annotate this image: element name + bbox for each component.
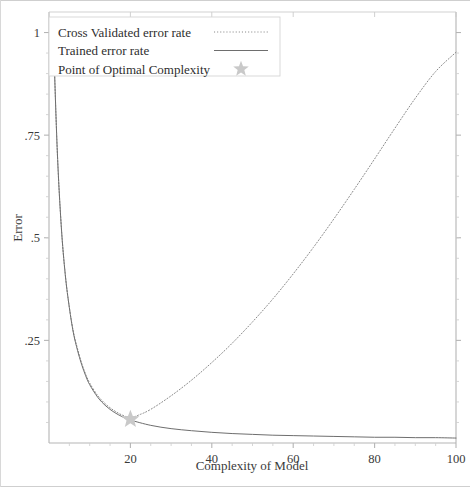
y-tick-label: .25 [24, 334, 40, 348]
plot-frame [49, 12, 456, 443]
y-axis-label: Error [10, 214, 25, 242]
y-axis-minor-ticks [46, 53, 459, 422]
chart-legend: Cross Validated error rateTrained error … [49, 17, 280, 77]
y-tick-label: .75 [24, 129, 40, 143]
x-tick-label: 100 [447, 452, 466, 466]
optimal-complexity-star-icon [121, 410, 139, 427]
legend-label: Cross Validated error rate [58, 25, 191, 40]
y-axis-tick-labels: .25.5.751 [24, 26, 40, 348]
legend-label: Trained error rate [58, 43, 149, 58]
series-line-cv-error [53, 24, 456, 417]
data-series-layer [53, 24, 456, 438]
x-axis-major-ticks [130, 12, 456, 448]
x-axis-label: Complexity of Model [196, 458, 309, 473]
legend-label: Point of Optimal Complexity [58, 62, 211, 77]
y-tick-label: 1 [34, 26, 40, 40]
chart-figure: .25.5.751 20406080100 Complexity of Mode… [0, 0, 470, 487]
x-tick-label: 80 [368, 452, 381, 466]
y-axis-major-ticks [44, 33, 461, 341]
x-tick-label: 20 [124, 452, 137, 466]
optimal-point-marker [121, 410, 139, 427]
y-tick-label: .5 [31, 231, 40, 245]
series-line-trained-error [53, 24, 456, 438]
error-vs-complexity-chart: .25.5.751 20406080100 Complexity of Mode… [0, 0, 470, 487]
